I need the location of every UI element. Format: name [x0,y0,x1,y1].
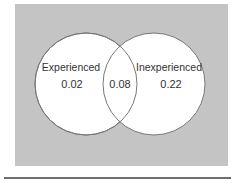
venn-diagram: Experienced 0.02 0.08 Inexperienced 0.22 [0,0,239,184]
divider-line [4,177,231,179]
experienced-value: 0.02 [61,78,82,90]
inexperienced-value: 0.22 [160,78,181,90]
intersection-value: 0.08 [109,78,130,90]
experienced-label: Experienced [42,61,101,73]
inexperienced-label: Inexperienced [136,61,202,73]
